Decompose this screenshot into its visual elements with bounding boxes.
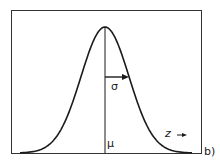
panel-label: b)	[204, 146, 215, 157]
mu-label: μ	[107, 138, 114, 149]
sigma-label: σ	[111, 81, 118, 92]
z-arrowhead-icon	[182, 133, 187, 137]
z-label: z	[165, 128, 171, 139]
plot-frame	[12, 11, 202, 154]
